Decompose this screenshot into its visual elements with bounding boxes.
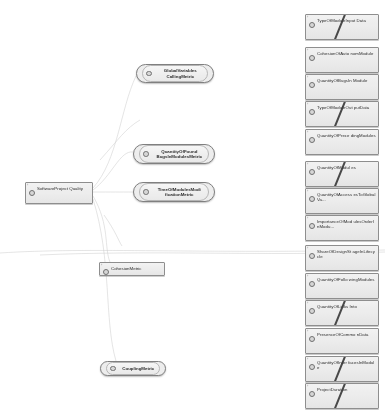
node-corner-marker: › <box>307 75 308 79</box>
node-label: TypeOfModuleOut putData <box>317 105 378 110</box>
node-icon <box>146 71 152 77</box>
node-icon <box>309 169 315 175</box>
node-corner-marker: › <box>307 274 308 278</box>
node-cohesion-metric[interactable]: › CohesionMetric <box>99 262 165 276</box>
node-label: ShareOfDesignSt ageInLifecycle <box>317 249 378 259</box>
node-label: GlobalVariables CallingMetric <box>154 68 207 78</box>
node-label: TimeOfModulesModi ficationMetric <box>151 187 208 197</box>
node-corner-marker: › <box>307 15 308 19</box>
leaf-node[interactable]: ›QuantityOfFollo wingModules <box>305 273 379 299</box>
node-quantityoffoundbugs-metric[interactable]: QuantityOfFound BugsInModulesMetric <box>133 144 215 164</box>
node-corner-marker: › <box>307 162 308 166</box>
node-inner-ring: GlobalVariables CallingMetric <box>142 65 208 82</box>
leaf-node[interactable]: ›QuantityOfLinks Into <box>305 300 379 326</box>
node-label: QuantityOfFollo wingModules <box>317 277 378 282</box>
node-label: CohesionOfAuto nomModule <box>317 51 378 56</box>
node-corner-marker: › <box>307 189 308 193</box>
node-icon <box>309 109 315 115</box>
node-icon <box>309 22 315 28</box>
node-corner-marker: › <box>307 357 308 361</box>
node-label: CohesionMetric <box>111 266 164 271</box>
node-corner-marker: › <box>101 263 102 267</box>
node-corner-marker: › <box>307 216 308 220</box>
node-icon <box>309 196 315 202</box>
leaf-node[interactable]: ›CohesionOfAuto nomModule <box>305 47 379 73</box>
node-icon <box>29 190 35 196</box>
node-icon <box>143 189 149 195</box>
node-icon <box>309 364 315 370</box>
node-corner-marker: › <box>307 102 308 106</box>
leaf-node[interactable]: ›PresenceOfCommo nData <box>305 328 379 354</box>
node-icon <box>103 269 109 275</box>
node-corner-marker: › <box>307 329 308 333</box>
leaf-node[interactable]: ›TypeOfModuleInput Data <box>305 14 379 40</box>
leaf-node[interactable]: ›ProjectDuration <box>305 383 379 409</box>
edge-aux-2 <box>104 215 122 246</box>
node-label: QuantityOfAccess esToGlobalVa... <box>317 192 378 202</box>
node-label: ImportanceOfMod ulesOrderInModu... <box>317 219 378 229</box>
node-icon <box>309 55 315 61</box>
leaf-node[interactable]: ›TypeOfModuleOut putData <box>305 101 379 127</box>
node-label: QuantityOfLinks Into <box>317 304 378 309</box>
node-icon <box>309 308 315 314</box>
edge-root-to-bugs <box>93 152 133 190</box>
leaf-node[interactable]: ›ShareOfDesignSt ageInLifecycle <box>305 245 379 271</box>
node-icon <box>309 281 315 287</box>
leaf-node[interactable]: ›QuantityOfBugsIn Module <box>305 74 379 100</box>
node-corner-marker: › <box>307 48 308 52</box>
node-label: CouplingMetric <box>118 366 159 371</box>
node-icon <box>309 223 315 229</box>
node-label: TypeOfModuleInput Data <box>317 18 378 23</box>
leaf-node[interactable]: ›QuantityOfModul es <box>305 161 379 187</box>
node-corner-marker: › <box>307 384 308 388</box>
node-label: QuantityOfModul es <box>317 165 378 170</box>
node-corner-marker: › <box>307 130 308 134</box>
leaf-node[interactable]: ›QuantityOfAccess esToGlobalVa... <box>305 188 379 214</box>
node-icon <box>309 336 315 342</box>
node-icon <box>309 253 315 259</box>
node-label: QuantityOfBugsIn Module <box>317 78 378 83</box>
node-label: ProjectDuration <box>317 387 378 392</box>
leaf-node[interactable]: ›QuantityOfPrece dingModules <box>305 129 379 155</box>
edge-root-to-globalvars <box>93 76 136 188</box>
node-software-project-quality[interactable]: › SoftwareProject Quality <box>25 182 93 204</box>
node-label: QuantityOfPrece dingModules <box>317 133 378 138</box>
node-corner-marker: › <box>307 301 308 305</box>
node-globalvariables-calling-metric[interactable]: GlobalVariables CallingMetric <box>136 64 214 83</box>
node-corner-marker: › <box>307 246 308 250</box>
node-inner-ring: TimeOfModulesModi ficationMetric <box>139 183 209 201</box>
node-icon <box>110 366 116 372</box>
node-label: QuantityOfInter facesInModule <box>317 360 378 370</box>
node-corner-marker: › <box>27 183 28 187</box>
edge-root-to-cohesion <box>93 196 110 262</box>
node-inner-ring: QuantityOfFound BugsInModulesMetric <box>139 145 209 163</box>
node-icon <box>143 151 149 157</box>
node-timeofmodulesmodification-metric[interactable]: TimeOfModulesModi ficationMetric <box>133 182 215 202</box>
node-icon <box>309 137 315 143</box>
node-label: SoftwareProject Quality <box>37 186 92 191</box>
node-label: QuantityOfFound BugsInModulesMetric <box>151 149 208 159</box>
edge-root-to-coupling <box>93 199 116 361</box>
leaf-node[interactable]: ›QuantityOfInter facesInModule <box>305 356 379 382</box>
node-inner-ring: CouplingMetric <box>106 362 160 375</box>
leaf-node[interactable]: ›ImportanceOfMod ulesOrderInModu... <box>305 215 379 241</box>
diagram-canvas: › SoftwareProject Quality GlobalVariable… <box>0 0 385 415</box>
node-icon <box>309 82 315 88</box>
node-coupling-metric[interactable]: CouplingMetric <box>100 361 166 376</box>
node-icon <box>309 391 315 397</box>
node-label: PresenceOfCommo nData <box>317 332 378 337</box>
